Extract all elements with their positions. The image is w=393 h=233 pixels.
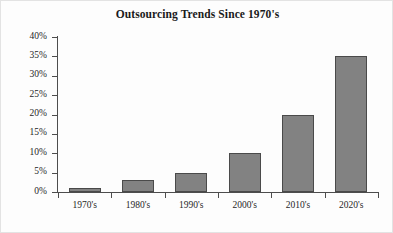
x-axis-tick (111, 193, 112, 198)
y-axis-label: 10% (7, 147, 47, 157)
bar (282, 115, 314, 193)
y-axis-label: 20% (7, 108, 47, 118)
bar (229, 153, 261, 192)
y-axis-label: 5% (7, 166, 47, 176)
x-axis-label: 1970's (58, 200, 111, 210)
x-axis-tick (165, 193, 166, 198)
x-axis-tick (271, 193, 272, 198)
bar (175, 173, 207, 192)
bar (335, 56, 367, 192)
bar (69, 188, 101, 192)
y-axis-label: 0% (7, 186, 47, 196)
y-axis-label: 25% (7, 89, 47, 99)
chart-title: Outsourcing Trends Since 1970's (1, 8, 393, 20)
y-axis-label: 35% (7, 50, 47, 60)
x-axis-label: 1980's (111, 200, 164, 210)
chart-screenshot: Outsourcing Trends Since 1970's 0%5%10%1… (0, 0, 393, 233)
y-axis-label: 30% (7, 69, 47, 79)
x-axis-tick (218, 193, 219, 198)
x-axis-tick (378, 193, 379, 198)
bar (122, 180, 154, 192)
x-axis-label: 2000's (218, 200, 271, 210)
x-axis-label: 2020's (325, 200, 378, 210)
x-axis-label: 2010's (271, 200, 324, 210)
y-axis-label: 15% (7, 127, 47, 137)
x-axis-tick (325, 193, 326, 198)
y-axis-label: 40% (7, 31, 47, 41)
plot-area (58, 37, 378, 192)
x-axis-tick (58, 193, 59, 198)
x-axis-label: 1990's (165, 200, 218, 210)
